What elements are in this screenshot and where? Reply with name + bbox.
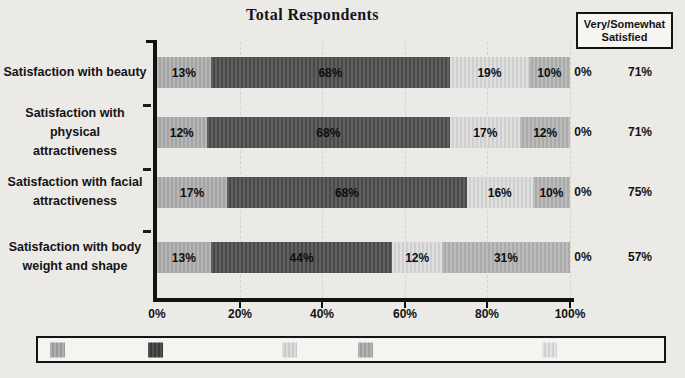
y-axis-tick — [143, 230, 151, 233]
category-label: Satisfaction with beauty — [0, 63, 150, 82]
bar-segment: 17% — [450, 117, 520, 148]
bar-segment: 10% — [529, 57, 570, 88]
bar-segment: 68% — [227, 177, 467, 208]
zero-value: 0% — [566, 65, 600, 79]
legend-swatch — [358, 342, 373, 357]
bar-segment: 12% — [392, 242, 442, 273]
zero-value: 0% — [566, 125, 600, 139]
bar-segment: 12% — [157, 117, 207, 148]
x-tick-label: 100% — [538, 307, 602, 321]
category-label: Satisfaction with facialattractiveness — [0, 173, 150, 211]
chart-title: Total Respondents — [105, 6, 520, 24]
x-tick-label: 60% — [373, 307, 437, 321]
x-tick-label: 80% — [455, 307, 519, 321]
legend-swatch — [282, 342, 297, 357]
satisfied-value: 71% — [616, 65, 664, 79]
satisfied-header-box: Very/Somewhat Satisfied — [576, 12, 673, 49]
bar-segment: 68% — [207, 117, 451, 148]
bar-segment: 31% — [442, 242, 570, 273]
stacked-bar: 13%44%12%31% — [157, 242, 570, 273]
satisfied-header-line1: Very/Somewhat — [578, 18, 671, 31]
bar-segment: 10% — [533, 177, 570, 208]
stacked-bar: 13%68%19%10% — [157, 57, 570, 88]
category-label: Satisfaction with physicalattractiveness — [0, 104, 150, 160]
satisfied-header-line2: Satisfied — [578, 31, 671, 44]
x-tick-label: 40% — [290, 307, 354, 321]
satisfied-value: 71% — [616, 125, 664, 139]
x-tick-label: 20% — [208, 307, 272, 321]
satisfied-value: 75% — [616, 185, 664, 199]
bar-segment: 17% — [157, 177, 227, 208]
bar-segment: 19% — [450, 57, 528, 88]
stacked-bar: 12%68%17%12% — [157, 117, 570, 148]
legend-swatch — [148, 342, 163, 357]
bar-segment: 12% — [520, 117, 570, 148]
y-axis-top-tick — [146, 40, 154, 43]
x-axis-line — [153, 298, 574, 302]
chart-page: Total Respondents Very/Somewhat Satisfie… — [0, 0, 685, 378]
zero-value: 0% — [566, 185, 600, 199]
y-axis-tick — [143, 168, 151, 171]
bar-segment: 44% — [211, 242, 393, 273]
bar-segment: 13% — [157, 242, 211, 273]
bar-segment: 13% — [157, 57, 211, 88]
satisfied-value: 57% — [616, 250, 664, 264]
category-label: Satisfaction with bodyweight and shape — [0, 238, 150, 276]
bar-segment: 68% — [211, 57, 451, 88]
stacked-bar: 17%68%16%10% — [157, 177, 570, 208]
bar-segment: 16% — [467, 177, 533, 208]
legend-swatch — [50, 342, 65, 357]
x-tick-label: 0% — [125, 307, 189, 321]
legend-box — [36, 336, 666, 363]
legend-swatch — [542, 342, 557, 357]
zero-value: 0% — [566, 250, 600, 264]
